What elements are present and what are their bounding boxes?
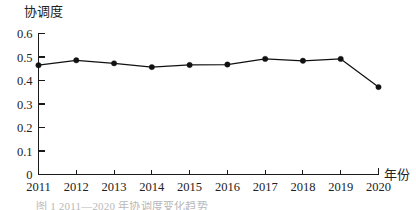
x-tick-label: 2013 (102, 180, 127, 194)
x-tick-label: 2011 (26, 180, 51, 194)
y-tick-label-group: 00.10.20.30.40.50.6 (17, 27, 33, 182)
x-tick-label: 2016 (215, 180, 240, 194)
data-point (187, 62, 192, 67)
data-point (74, 58, 79, 63)
data-point (225, 62, 230, 67)
figure-caption-strip: 图 1 2011—2020 年协调度变化趋势 (0, 201, 416, 210)
y-tick-label: 0.2 (17, 121, 33, 135)
x-tick-group (76, 170, 340, 175)
x-tick-label: 2018 (290, 180, 315, 194)
chart-page: 协调度 年份 00.10.20.30.40.50.6 2011201220132… (0, 0, 416, 210)
data-point (262, 56, 267, 61)
x-tick-label: 2012 (64, 180, 89, 194)
coordination-degree-line-chart: 协调度 年份 00.10.20.30.40.50.6 2011201220132… (0, 0, 416, 210)
y-tick-label: 0.6 (17, 27, 33, 41)
data-point (111, 61, 116, 66)
x-tick-label: 2019 (328, 180, 353, 194)
data-point (300, 58, 305, 63)
data-point (376, 84, 381, 89)
y-tick-label: 0.1 (17, 145, 33, 159)
data-point (36, 63, 41, 68)
x-tick-label: 2020 (366, 180, 391, 194)
data-point (338, 56, 343, 61)
figure-caption: 图 1 2011—2020 年协调度变化趋势 (36, 201, 208, 210)
data-point (149, 64, 154, 69)
x-tick-label: 2014 (139, 180, 165, 194)
x-tick-label: 2017 (253, 180, 278, 194)
y-tick-label: 0.4 (17, 74, 33, 88)
y-tick-label: 0.3 (17, 98, 33, 112)
x-tick-label-group: 2011201220132014201520162017201820192020 (26, 180, 391, 194)
y-axis-label: 协调度 (24, 4, 63, 19)
y-tick-label: 0.5 (17, 51, 33, 65)
series-line-coordination-degree (39, 59, 379, 87)
y-tick-group (39, 57, 45, 175)
x-tick-label: 2015 (177, 180, 202, 194)
